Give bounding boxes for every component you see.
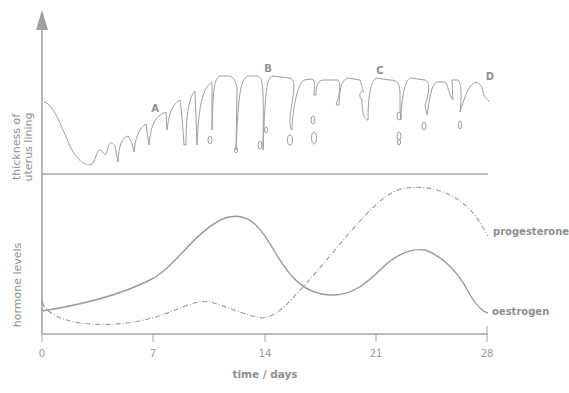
marker-d: D	[486, 71, 494, 82]
x-axis-label: time / days	[232, 368, 297, 380]
lower-ylabel: hormone levels	[11, 242, 24, 327]
tick-28: 28	[481, 348, 494, 359]
tick-0: 0	[39, 348, 45, 359]
y-axis-arrow-icon	[36, 10, 48, 30]
upper-ylabel-line2: uterus lining	[22, 113, 35, 182]
legend-oestrogen: oestrogen	[492, 306, 549, 317]
legend-progesterone: progesterone	[493, 226, 569, 237]
uterus-lining-curve	[44, 76, 489, 165]
marker-c: C	[376, 65, 383, 76]
oestrogen-curve	[42, 216, 488, 313]
marker-b: B	[264, 63, 272, 74]
menstrual-cycle-diagram: 0 7 14 21 28 time / days thickness of ut…	[0, 0, 569, 393]
tick-14: 14	[259, 348, 272, 359]
tick-21: 21	[370, 348, 383, 359]
progesterone-curve	[42, 187, 488, 324]
marker-a: A	[151, 103, 159, 114]
tick-7: 7	[150, 348, 156, 359]
